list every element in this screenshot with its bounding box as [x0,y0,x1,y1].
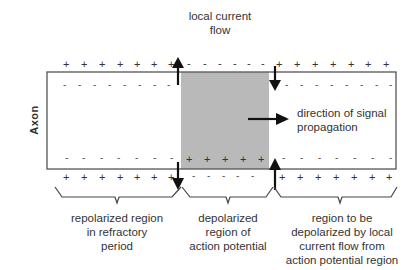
svg-text:-: - [251,170,254,181]
svg-text:-: - [300,152,303,163]
svg-text:-: - [207,170,210,181]
svg-text:+: + [117,171,123,183]
svg-text:-: - [285,79,288,90]
svg-text:-: - [389,152,392,163]
label-line: local current [165,9,275,23]
region-label-to-be-depolarized: region to be depolarized by local curren… [280,211,404,267]
svg-text:+: + [151,58,157,70]
svg-text:-: - [93,79,96,90]
svg-text:+: + [312,58,318,70]
svg-text:-: - [123,79,126,90]
svg-text:+: + [315,171,321,183]
label-line: depolarized [180,211,276,225]
svg-text:+: + [297,171,303,183]
local-current-flow-label: local current flow [165,9,275,37]
svg-text:-: - [335,152,338,163]
region-label-depolarized: depolarized region of action potential [180,211,276,253]
svg-text:+: + [369,171,375,183]
svg-text:+: + [134,171,140,183]
svg-text:-: - [375,79,378,90]
svg-text:-: - [167,79,170,90]
svg-text:-: - [360,79,363,90]
label-line: region to be [280,211,404,225]
svg-text:-: - [153,152,156,163]
label-line: current flow from [280,239,404,253]
svg-text:+: + [186,153,192,165]
svg-text:-: - [261,57,265,69]
svg-text:+: + [351,171,357,183]
svg-text:+: + [365,58,371,70]
charges-top-outside-middle: ------ [187,57,265,69]
svg-text:+: + [168,58,174,70]
svg-text:-: - [138,79,141,90]
svg-text:+: + [222,153,228,165]
svg-text:-: - [135,152,138,163]
svg-text:-: - [218,57,222,69]
svg-text:+: + [330,58,336,70]
svg-text:+: + [279,171,285,183]
svg-text:+: + [151,171,157,183]
svg-text:+: + [240,153,246,165]
svg-text:-: - [282,152,285,163]
svg-text:+: + [81,171,87,183]
svg-text:+: + [204,153,210,165]
axon-label: Axon [28,100,40,140]
svg-text:-: - [153,79,156,90]
region-label-repolarized: repolarized region in refractory period [62,211,172,253]
svg-text:-: - [192,170,195,181]
svg-text:-: - [82,152,85,163]
svg-text:+: + [168,171,174,183]
svg-text:-: - [65,152,68,163]
charges-bottom-inside-right: ------- [282,152,392,163]
svg-text:+: + [386,171,392,183]
brace-repolarized [55,187,181,203]
svg-text:-: - [318,152,321,163]
svg-text:-: - [108,79,111,90]
svg-text:-: - [345,79,348,90]
svg-text:+: + [383,58,389,70]
svg-text:-: - [170,152,173,163]
direction-label: direction of signal propagation [297,106,407,134]
label-line: in refractory [62,225,172,239]
svg-text:+: + [99,58,105,70]
svg-text:+: + [258,153,264,165]
svg-text:-: - [233,57,237,69]
charges-bottom-inside-left: ------- [65,152,173,163]
svg-text:+: + [63,171,69,183]
label-line: period [62,239,172,253]
svg-text:-: - [203,57,207,69]
svg-text:+: + [276,58,282,70]
svg-text:-: - [187,57,191,69]
label-line: flow [165,23,275,37]
label-line: action potential region [280,253,404,267]
label-line: depolarized by local [280,225,404,239]
svg-text:-: - [222,170,225,181]
svg-text:+: + [117,58,123,70]
charges-top-outside-left: +++++++ [63,58,174,70]
brace-to-be-depolarized [274,187,397,203]
label-line: direction of signal [297,106,407,120]
svg-text:-: - [78,79,81,90]
svg-text:-: - [300,79,303,90]
label-line: action potential [180,239,276,253]
charges-bottom-outside-left: +++++++ [63,171,174,183]
svg-text:+: + [63,58,69,70]
svg-text:-: - [100,152,103,163]
label-line: propagation [297,120,407,134]
svg-text:+: + [348,58,354,70]
label-line: region of [180,225,276,239]
svg-text:-: - [353,152,356,163]
brace-depolarized [182,187,273,203]
svg-text:-: - [315,79,318,90]
svg-text:-: - [236,170,239,181]
svg-text:+: + [294,58,300,70]
svg-text:-: - [117,152,120,163]
charges-top-inside-right: -------- [285,79,392,90]
charges-top-inside-left: -------- [63,79,170,90]
svg-text:+: + [333,171,339,183]
svg-text:+: + [99,171,105,183]
svg-text:-: - [247,57,251,69]
svg-text:+: + [134,58,140,70]
svg-text:-: - [371,152,374,163]
svg-text:-: - [63,79,66,90]
